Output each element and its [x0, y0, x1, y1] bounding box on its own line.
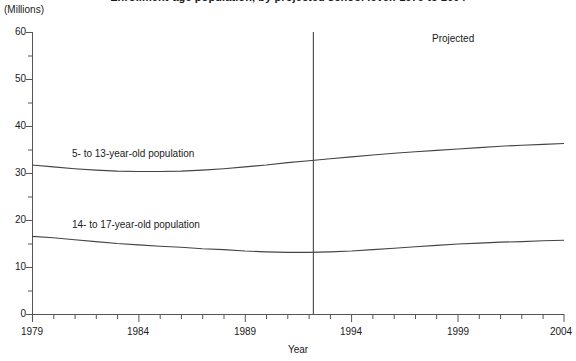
x-axis-title: Year [238, 344, 358, 355]
x-tick-label-1999: 1999 [438, 327, 478, 337]
y-tick-label-30: 30 [4, 168, 26, 178]
y-tick-label-20: 20 [4, 215, 26, 225]
x-tick-label-1989: 1989 [225, 327, 265, 337]
x-axis-ticks [33, 314, 565, 322]
y-tick-label-0: 0 [4, 309, 26, 319]
y-tick-label-60: 60 [4, 27, 26, 37]
projected-annotation: Projected [432, 33, 474, 44]
y-tick-label-10: 10 [4, 262, 26, 272]
series-label-5-to-13: 5- to 13-year-old population [72, 148, 194, 159]
chart-container: Enrollment-age population, by projected … [0, 0, 576, 361]
series-line-14-to-17 [32, 236, 564, 252]
x-tick-label-1979: 1979 [12, 327, 52, 337]
series-label-14-to-17: 14- to 17-year-old population [72, 219, 200, 230]
x-tick-label-2004: 2004 [541, 327, 576, 337]
y-tick-label-40: 40 [4, 121, 26, 131]
x-tick-label-1984: 1984 [118, 327, 158, 337]
x-tick-label-1994: 1994 [331, 327, 371, 337]
y-tick-label-50: 50 [4, 74, 26, 84]
chart-plot-area [0, 0, 576, 361]
y-axis-major-ticks [26, 33, 32, 315]
